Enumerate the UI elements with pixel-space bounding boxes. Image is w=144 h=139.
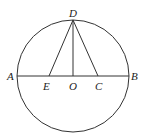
geometry-diagram: D A B E O C xyxy=(0,0,144,139)
segment-dc xyxy=(73,20,98,76)
label-a: A xyxy=(6,70,14,82)
label-b: B xyxy=(131,70,138,82)
label-c: C xyxy=(95,80,103,92)
label-o: O xyxy=(69,80,77,92)
label-d: D xyxy=(68,7,77,19)
label-e: E xyxy=(42,80,50,92)
segment-de xyxy=(49,20,73,76)
